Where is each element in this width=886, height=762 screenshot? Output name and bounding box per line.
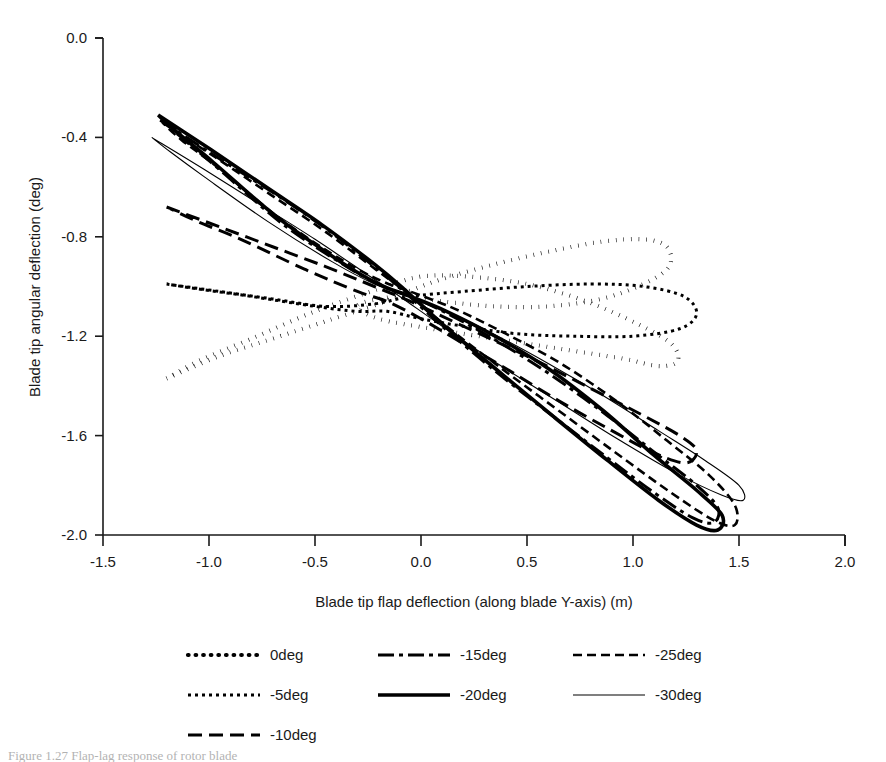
x-tick-label-7: 2.0	[835, 553, 856, 570]
legend-label-0deg: 0deg	[270, 646, 303, 663]
y-axis-title: Blade tip angular deflection (deg)	[26, 177, 43, 397]
y-tick-label-1: -0.4	[61, 128, 87, 145]
x-ticks-group	[103, 535, 845, 546]
y-tick-label-2: -0.8	[61, 228, 87, 245]
y-tick-label-0: 0.0	[66, 29, 87, 46]
x-axis-title: Blade tip flap deflection (along blade Y…	[315, 593, 633, 610]
legend-label-25deg: -25deg	[655, 646, 702, 663]
x-tick-label-3: 0.0	[411, 553, 432, 570]
x-tick-label-5: 1.0	[623, 553, 644, 570]
figure-caption: Figure 1.27 Flap-lag response of rotor b…	[8, 748, 237, 762]
y-tick-label-5: -2.0	[61, 526, 87, 543]
x-tick-label-4: 0.5	[517, 553, 538, 570]
x-tick-label-0: -1.5	[90, 553, 116, 570]
x-tick-label-6: 1.5	[729, 553, 750, 570]
axes-group	[95, 38, 845, 546]
legend-label-15deg: -15deg	[460, 646, 507, 663]
legend-label-30deg: -30deg	[655, 686, 702, 703]
x-tick-label-2: -0.5	[302, 553, 328, 570]
x-tick-labels-group: -1.5 -1.0 -0.5 0.0 0.5 1.0 1.5 2.0	[90, 553, 855, 570]
chart-plot: 0.0 -0.4 -0.8 -1.2 -1.6 -2.0 -1.5 -1.0 -…	[0, 0, 886, 762]
y-tick-labels-group: 0.0 -0.4 -0.8 -1.2 -1.6 -2.0	[61, 29, 87, 543]
y-ticks-group	[95, 38, 103, 535]
chart-legend: 0deg-5deg-10deg-15deg-20deg-25deg-30deg	[188, 646, 702, 743]
legend-label-20deg: -20deg	[460, 686, 507, 703]
legend-label-5deg: -5deg	[270, 686, 308, 703]
legend-label-10deg: -10deg	[270, 726, 317, 743]
data-curves-group	[152, 115, 745, 531]
figure-container: 0.0 -0.4 -0.8 -1.2 -1.6 -2.0 -1.5 -1.0 -…	[0, 0, 886, 762]
y-tick-label-3: -1.2	[61, 327, 87, 344]
x-tick-label-1: -1.0	[196, 553, 222, 570]
y-tick-label-4: -1.6	[61, 427, 87, 444]
